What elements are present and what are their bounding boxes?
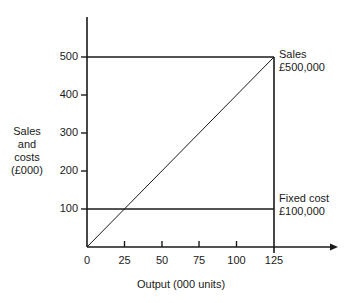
x-tick-label-0: 0 — [72, 254, 102, 266]
x-axis-title: Output (000 units) — [137, 278, 225, 291]
y-tick-label-400: 400 — [48, 88, 78, 100]
y-axis-title: Sales and costs (£000) — [6, 125, 48, 177]
y-tick-label-100: 100 — [48, 202, 78, 214]
x-tick-label-125: 125 — [259, 254, 289, 266]
sales-line — [87, 57, 274, 247]
fixed-cost-annotation: Fixed cost £100,000 — [279, 192, 329, 218]
x-tick-label-75: 75 — [184, 254, 214, 266]
x-ticks — [125, 241, 237, 247]
x-tick-label-100: 100 — [222, 254, 252, 266]
y-ticks — [81, 57, 87, 209]
y-tick-label-500: 500 — [48, 50, 78, 62]
x-tick-label-25: 25 — [110, 254, 140, 266]
sales-annotation: Sales £500,000 — [279, 48, 325, 74]
x-tick-label-50: 50 — [147, 254, 177, 266]
x-axis-arrow-icon — [330, 244, 338, 251]
y-tick-label-300: 300 — [48, 126, 78, 138]
y-tick-label-200: 200 — [48, 164, 78, 176]
